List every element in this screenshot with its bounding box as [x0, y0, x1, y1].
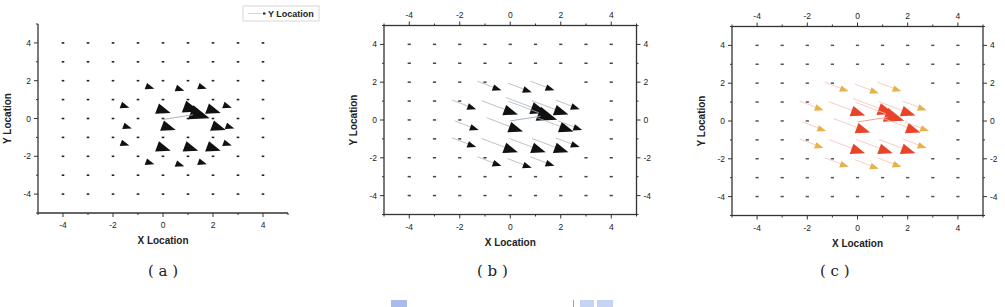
plot-frame	[384, 26, 637, 215]
arrow-shaft	[877, 82, 895, 89]
x-tick-label: 4	[261, 220, 266, 230]
arrow	[559, 176, 562, 178]
panel-c: -4-2024420-2-4-4-2024420-2-4X LocationY …	[670, 0, 1005, 260]
arrow-shaft	[162, 137, 188, 147]
arrow-shaft	[530, 81, 548, 88]
arrow-head	[553, 105, 569, 115]
arrow	[956, 139, 959, 141]
y-tick-label: 4	[720, 40, 725, 50]
arrow	[433, 157, 436, 159]
arrow-shaft	[183, 155, 201, 162]
arrow	[931, 158, 934, 160]
arrow	[906, 64, 909, 66]
arrow	[433, 195, 436, 197]
arrow	[956, 158, 959, 160]
arrow	[187, 174, 190, 176]
arrow-head	[850, 144, 866, 154]
arrow-head	[155, 141, 171, 151]
arrow-shaft	[877, 158, 895, 165]
arrow-shaft	[855, 84, 873, 91]
arrow	[781, 64, 784, 66]
arrow-shaft	[509, 138, 535, 148]
arrow-shaft	[829, 102, 855, 112]
arrow	[856, 177, 859, 179]
arrow	[781, 196, 784, 198]
arrow	[458, 44, 461, 46]
arrow	[458, 176, 461, 178]
arrow	[483, 176, 486, 178]
arrow-shaft	[482, 101, 508, 111]
arrow	[483, 44, 486, 46]
arrow	[881, 64, 884, 66]
arrow-head	[855, 123, 871, 133]
arrow	[433, 138, 436, 140]
arrow	[559, 63, 562, 65]
arrow	[212, 156, 215, 158]
arrow-head	[205, 104, 221, 114]
right-tick-label: 0	[644, 115, 649, 125]
arrow-head	[507, 122, 523, 132]
y-tick-label: 0	[720, 116, 725, 126]
arrow-shaft	[530, 157, 548, 164]
y-tick-label: 4	[372, 39, 377, 49]
arrow	[509, 44, 512, 46]
top-tick-label: -4	[405, 10, 413, 20]
arrow	[756, 139, 759, 141]
arrow	[956, 45, 959, 47]
arrow-head	[850, 106, 866, 116]
arrow	[756, 158, 759, 160]
arrow	[956, 177, 959, 179]
arrow	[881, 45, 884, 47]
arrow	[112, 174, 115, 176]
top-tick-label: -4	[753, 11, 761, 21]
arrow-shaft	[556, 100, 574, 107]
arrow	[956, 82, 959, 84]
arrow	[237, 193, 240, 195]
arrow	[112, 61, 115, 63]
arrow	[262, 99, 265, 101]
arrow	[534, 195, 537, 197]
arrow	[881, 177, 884, 179]
arrow	[906, 196, 909, 198]
arrow-shaft	[855, 160, 873, 167]
arrow	[483, 157, 486, 159]
arrow-head	[892, 85, 902, 91]
arrow-head	[892, 161, 902, 167]
arrow	[187, 193, 190, 195]
arrows	[756, 45, 960, 198]
right-tick-label: 4	[644, 39, 649, 49]
arrow	[584, 81, 587, 83]
arrow	[956, 196, 959, 198]
x-tick-label: 2	[211, 220, 216, 230]
x-tick-label: -4	[405, 222, 413, 232]
arrow	[212, 61, 215, 63]
axes: -4-2024420-2-4-4-2024420-2-4X LocationY …	[696, 11, 998, 249]
x-tick-label: -2	[109, 220, 117, 230]
arrow-shaft	[508, 83, 526, 90]
arrow	[112, 80, 115, 82]
top-tick-label: 2	[905, 11, 910, 21]
arrow	[62, 99, 65, 101]
arrow	[756, 82, 759, 84]
arrow-shaft	[506, 98, 536, 109]
right-tick-label: -2	[644, 153, 652, 163]
arrow	[62, 42, 65, 44]
arrow	[87, 174, 90, 176]
arrow	[458, 195, 461, 197]
arrow	[262, 193, 265, 195]
arrow	[408, 176, 411, 178]
arrow	[162, 193, 165, 195]
y-tick-label: -2	[717, 154, 725, 164]
arrow	[162, 174, 165, 176]
arrow-shaft	[902, 101, 920, 108]
x-tick-label: -4	[753, 223, 761, 233]
arrow-head	[492, 160, 502, 166]
arrow	[62, 80, 65, 82]
arrow	[62, 137, 65, 139]
right-tick-label: -2	[990, 154, 998, 164]
arrow	[237, 118, 240, 120]
arrow	[212, 193, 215, 195]
arrow	[212, 99, 215, 101]
arrow	[906, 45, 909, 47]
arrow	[610, 195, 613, 197]
